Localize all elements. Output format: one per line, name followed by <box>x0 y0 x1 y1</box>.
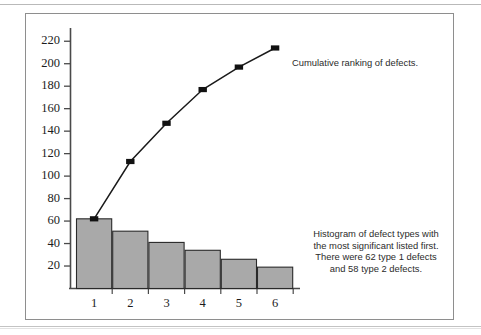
pareto-chart <box>0 0 481 335</box>
annotation-line: There were 62 type 1 defects <box>291 251 461 263</box>
y-tick-label: 120 <box>26 147 60 159</box>
annotation-histogram-note: Histogram of defect types with the most … <box>291 228 461 274</box>
cumulative-line-series <box>94 48 275 219</box>
y-tick-label: 180 <box>26 79 60 91</box>
y-axis-ticks <box>64 41 71 266</box>
x-tick-label: 5 <box>230 296 248 311</box>
y-tick-label: 40 <box>26 237 60 249</box>
x-axis-ticks <box>112 289 293 295</box>
bar-series <box>77 219 293 289</box>
x-tick-label: 3 <box>158 296 176 311</box>
x-tick-label: 4 <box>194 296 212 311</box>
annotation-line: Histogram of defect types with <box>291 228 461 240</box>
x-tick-label: 1 <box>85 296 103 311</box>
y-tick-label: 140 <box>26 124 60 136</box>
y-tick-label: 100 <box>26 169 60 181</box>
annotation-line: the most significant listed first. <box>291 240 461 252</box>
annotation-cumulative-note: Cumulative ranking of defects. <box>292 57 418 69</box>
y-tick-label: 80 <box>26 192 60 204</box>
cumulative-markers <box>90 45 279 221</box>
y-tick-label: 220 <box>26 34 60 46</box>
annotation-line: and 58 type 2 defects. <box>291 263 461 275</box>
x-tick-label: 2 <box>121 296 139 311</box>
y-tick-label: 20 <box>26 259 60 271</box>
y-tick-label: 200 <box>26 57 60 69</box>
y-tick-label: 60 <box>26 214 60 226</box>
y-tick-label: 160 <box>26 102 60 114</box>
x-tick-label: 6 <box>266 296 284 311</box>
